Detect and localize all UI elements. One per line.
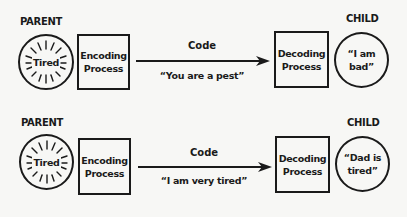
parent-state-text: Tired — [32, 156, 60, 169]
message-text: “I am very tired” — [138, 175, 270, 186]
child-label: CHILD — [347, 117, 380, 128]
channel-label: Code — [138, 147, 270, 158]
arrow-icon — [138, 162, 272, 172]
decoding-process-box: Decoding Process — [274, 31, 329, 88]
encoding-process-box: Encoding Process — [77, 34, 130, 90]
parent-state-text: Tired — [32, 56, 60, 69]
decoding-process-box: Decoding Process — [275, 136, 330, 193]
child-label: CHILD — [346, 13, 379, 24]
parent-circle: Tired — [19, 134, 74, 190]
message-text: “You are a pest” — [136, 70, 268, 81]
parent-label: PARENT — [20, 16, 62, 27]
parent-label: PARENT — [21, 117, 63, 128]
channel-label: Code — [136, 40, 268, 51]
child-circle: “Dad is tired” — [335, 136, 390, 192]
encoding-process-box: Encoding Process — [78, 138, 131, 195]
child-circle: “I am bad” — [334, 32, 389, 88]
parent-circle: Tired — [18, 34, 74, 90]
diagram-row-2: PARENT Tired Encoding Process Code “I am… — [0, 103, 407, 213]
arrow-icon — [136, 56, 270, 66]
diagram-row-1: PARENT Tired Encoding Process Code “You … — [0, 0, 407, 105]
